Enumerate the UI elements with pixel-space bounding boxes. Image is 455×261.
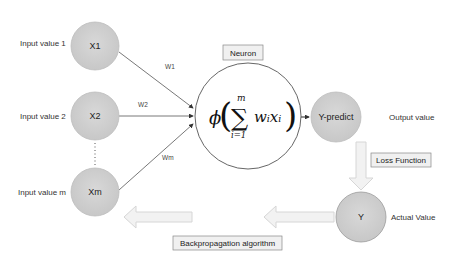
sum-symbol: ∑ bbox=[231, 104, 248, 132]
loss-function-box: Loss Function bbox=[371, 153, 431, 167]
weighted-term: wᵢxᵢ bbox=[254, 108, 281, 126]
input-label-m: Input value m bbox=[18, 188, 66, 197]
output-value-label: Output value bbox=[389, 113, 435, 122]
backprop-arrow-left-segment bbox=[124, 206, 192, 228]
actual-value-label: Actual Value bbox=[391, 213, 436, 222]
input-node-x1-label: X1 bbox=[89, 41, 100, 51]
weight-label-w1: W1 bbox=[165, 63, 175, 70]
backprop-arrow-right-segment bbox=[264, 206, 334, 228]
output-node-label: Y-predict bbox=[318, 112, 354, 122]
input-node-x2: X2 bbox=[71, 92, 119, 140]
input-node-xm: Xm bbox=[71, 168, 119, 216]
input-node-x2-label: X2 bbox=[89, 111, 100, 121]
sum-upper-limit: m bbox=[237, 93, 246, 103]
neural-network-diagram: X1 X2 Xm Input value 1 Input value 2 Inp… bbox=[0, 0, 455, 261]
actual-node-label: Y bbox=[358, 212, 364, 222]
actual-node-y: Y bbox=[336, 192, 386, 242]
backpropagation-box: Backpropagation algorithm bbox=[173, 236, 282, 250]
loss-arrow-down bbox=[349, 142, 373, 190]
input-node-x1: X1 bbox=[71, 22, 119, 70]
neuron-node: ϕ ( ∑ m i=1 wᵢxᵢ ) bbox=[195, 63, 301, 169]
neuron-label: Neuron bbox=[230, 49, 256, 58]
edge-x1-neuron bbox=[119, 52, 193, 108]
weight-label-w2: W2 bbox=[138, 101, 148, 108]
edge-xm-neuron bbox=[119, 124, 193, 190]
backpropagation-label: Backpropagation algorithm bbox=[180, 239, 276, 248]
sum-lower-limit: i=1 bbox=[231, 130, 246, 140]
input-node-xm-label: Xm bbox=[88, 187, 102, 197]
neuron-label-box: Neuron bbox=[223, 45, 263, 60]
input-label-1: Input value 1 bbox=[20, 39, 66, 48]
input-label-2: Input value 2 bbox=[20, 112, 66, 121]
weight-label-wm: Wm bbox=[162, 154, 174, 161]
loss-function-label: Loss Function bbox=[376, 156, 426, 165]
right-paren: ) bbox=[284, 95, 297, 135]
output-node-y-predict: Y-predict bbox=[311, 92, 361, 142]
